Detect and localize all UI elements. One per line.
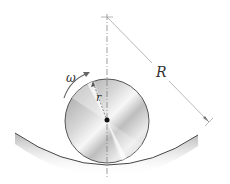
disc-center-dot <box>105 118 110 123</box>
r-label: r <box>96 91 102 104</box>
omega-label: ω <box>66 71 76 85</box>
R-label: R <box>155 64 167 80</box>
rolling-disc-diagram: R r ω <box>0 0 230 184</box>
